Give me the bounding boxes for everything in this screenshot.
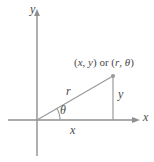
point-marker bbox=[111, 74, 115, 78]
radius-label: r bbox=[66, 85, 71, 97]
point-label-or: or bbox=[97, 56, 112, 68]
radius-segment bbox=[37, 76, 113, 120]
horizontal-leg-label: x bbox=[70, 124, 75, 136]
point-coordinates-label: (x, y) or (r, θ) bbox=[74, 57, 134, 68]
x-axis-label: x bbox=[143, 111, 148, 123]
point-label-paren-close-2: ) bbox=[130, 56, 134, 68]
theta-label: θ bbox=[60, 104, 66, 116]
coordinate-diagram-figure: y x r θ y x (x, y) or (r, θ) bbox=[0, 0, 154, 162]
coordinate-diagram-canvas bbox=[0, 0, 154, 162]
vertical-leg-label: y bbox=[118, 88, 123, 100]
x-axis-arrowhead bbox=[132, 117, 140, 123]
y-axis-label: y bbox=[30, 3, 35, 15]
